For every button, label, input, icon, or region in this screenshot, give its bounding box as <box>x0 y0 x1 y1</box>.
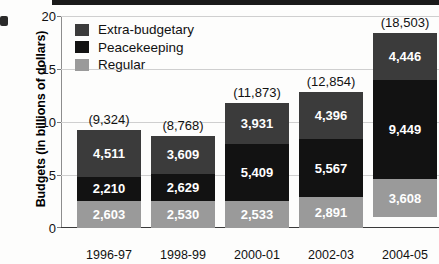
y-tick-label-0: 0 <box>30 222 56 235</box>
bar-segment-value-label: 3,931 <box>241 117 274 130</box>
bar-total-label: (11,873) <box>233 86 280 99</box>
bar-segment-value-label: 9,449 <box>389 123 422 136</box>
plot-area: Extra-budgetary Peacekeeping Regular 4,5… <box>61 16 439 228</box>
bar-segment-value-label: 4,511 <box>93 147 125 160</box>
bar-segment-value-label: 2,891 <box>315 206 348 219</box>
bar-segment-value-label: 3,608 <box>389 192 422 205</box>
bar-segment-peacekeeping: 5,409 <box>225 144 289 201</box>
y-tickmark-15 <box>57 69 61 70</box>
y-tick-label-20: 20 <box>30 10 56 23</box>
bar-segment-value-label: 5,409 <box>241 166 274 179</box>
scan-artifact-top-band <box>52 0 439 5</box>
bar-segment-value-label: 5,567 <box>315 162 348 175</box>
bar-total-label: (18,503) <box>381 16 429 29</box>
scan-artifact-left-mark <box>0 16 8 26</box>
bar-segment-regular: 2,533 <box>225 201 289 228</box>
bar-segment-value-label: 2,603 <box>93 208 126 221</box>
bar-segment-extra-budgetary: 4,396 <box>299 92 363 138</box>
bar-segment-regular: 3,608 <box>373 179 437 217</box>
bar-group-2002-03: 4,3965,5672,891(12,854) <box>299 17 363 228</box>
bar-segment-value-label: 3,609 <box>167 148 200 161</box>
bar-segment-value-label: 2,629 <box>167 181 200 194</box>
bar-stack: 3,9315,4092,533 <box>225 103 289 228</box>
bar-group-1998-99: 3,6092,6292,530(8,768) <box>151 17 215 228</box>
x-tick-label-2002-03: 2002-03 <box>299 249 363 262</box>
bar-total-label: (8,768) <box>162 119 203 132</box>
bar-segment-peacekeeping: 5,567 <box>299 139 363 198</box>
bar-segment-extra-budgetary: 4,446 <box>373 33 437 80</box>
bar-segment-extra-budgetary: 3,931 <box>225 103 289 144</box>
x-tick-label-1998-99: 1998-99 <box>151 249 215 262</box>
bar-segment-value-label: 2,530 <box>167 208 200 221</box>
bar-stack: 4,5112,2102,603 <box>77 130 141 228</box>
y-tickmark-10 <box>57 122 61 123</box>
y-tickmark-20 <box>57 16 61 17</box>
bar-segment-value-label: 2,533 <box>241 208 274 221</box>
bar-segment-extra-budgetary: 4,511 <box>77 130 141 178</box>
bar-chart: Budgets (in billions of dollars) 20 15 1… <box>0 0 439 264</box>
bar-segment-value-label: 4,396 <box>315 109 348 122</box>
x-tick-label-2000-01: 2000-01 <box>225 249 289 262</box>
bar-total-label: (9,324) <box>88 113 129 126</box>
bar-segment-value-label: 4,446 <box>389 50 422 63</box>
bar-segment-peacekeeping: 2,629 <box>151 174 215 202</box>
bar-segment-regular: 2,891 <box>299 197 363 228</box>
bar-total-label: (12,854) <box>307 75 355 88</box>
y-tick-label-15: 15 <box>30 63 56 76</box>
bar-segment-peacekeeping: 9,449 <box>373 80 437 180</box>
bar-segment-regular: 2,530 <box>151 201 215 228</box>
x-tick-label-2004-05: 2004-05 <box>373 249 437 262</box>
bar-segment-peacekeeping: 2,210 <box>77 177 141 200</box>
bar-segment-value-label: 2,210 <box>93 182 126 195</box>
y-tickmark-0 <box>57 227 61 228</box>
y-axis-tick-labels: 20 15 10 5 0 <box>30 0 56 264</box>
bar-stack: 4,4469,4493,608 <box>373 33 437 228</box>
x-tick-label-1996-97: 1996-97 <box>77 249 141 262</box>
y-tickmark-5 <box>57 175 61 176</box>
y-tick-label-5: 5 <box>30 169 56 182</box>
bar-segment-extra-budgetary: 3,609 <box>151 136 215 174</box>
bar-stack: 4,3965,5672,891 <box>299 92 363 228</box>
bar-group-2000-01: 3,9315,4092,533(11,873) <box>225 17 289 228</box>
bar-stack: 3,6092,6292,530 <box>151 136 215 229</box>
bar-segment-regular: 2,603 <box>77 201 141 228</box>
y-tick-label-10: 10 <box>30 116 56 129</box>
bar-group-2004-05: 4,4469,4493,608(18,503) <box>373 17 437 228</box>
bar-group-1996-97: 4,5112,2102,603(9,324) <box>77 17 141 228</box>
